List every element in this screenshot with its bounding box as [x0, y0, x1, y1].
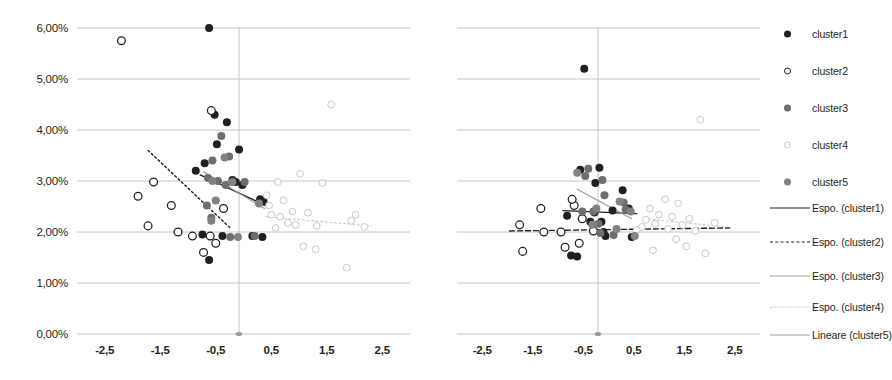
- data-point-cluster4: [285, 219, 292, 226]
- data-point-cluster4: [328, 101, 335, 108]
- data-point-cluster1: [235, 145, 243, 153]
- data-point-cluster5: [207, 217, 215, 225]
- legend-line-sample-icon: [770, 208, 810, 209]
- data-point-cluster4: [662, 196, 669, 203]
- y-axis-tick-label: 3,00%: [2, 175, 68, 187]
- data-point-cluster1: [563, 212, 571, 220]
- data-point-cluster2: [200, 249, 208, 257]
- data-point-cluster3: [251, 232, 259, 240]
- data-point-cluster1: [205, 256, 213, 264]
- data-point-cluster2: [189, 232, 197, 240]
- plot-area-left: [0, 0, 440, 380]
- data-point-cluster1: [258, 233, 266, 241]
- data-point-cluster4: [268, 211, 275, 218]
- data-point-cluster2: [516, 221, 524, 229]
- data-point-cluster2: [519, 247, 527, 255]
- data-point-cluster4: [686, 215, 693, 222]
- data-point-cluster2: [118, 37, 126, 45]
- data-point-cluster1: [192, 167, 200, 175]
- x-axis-tick-label: 0,5: [251, 344, 291, 356]
- data-point-cluster5: [228, 178, 236, 186]
- legend-line-sample-icon: [770, 276, 810, 277]
- data-point-cluster5: [592, 205, 600, 213]
- legend-marker-icon: [784, 31, 791, 38]
- data-point-cluster4: [656, 211, 663, 218]
- data-point-cluster5: [221, 154, 229, 162]
- x-axis-tick-label: 2,5: [362, 344, 402, 356]
- legend-item-cluster2[interactable]: cluster2: [770, 63, 848, 79]
- data-point-cluster4: [312, 246, 319, 253]
- data-point-cluster1: [573, 252, 581, 260]
- data-point-cluster2: [206, 232, 214, 240]
- legend-item-label: cluster3: [812, 102, 848, 114]
- data-point-cluster2: [144, 222, 152, 230]
- data-point-cluster1: [619, 186, 627, 194]
- data-point-cluster2: [557, 228, 565, 236]
- data-point-cluster1: [595, 164, 603, 172]
- legend-item-espo-cluster4[interactable]: Espo. (cluster4): [770, 299, 884, 315]
- data-point-cluster1: [591, 179, 599, 187]
- legend-marker-icon: [784, 142, 791, 149]
- data-point-cluster4: [679, 221, 686, 228]
- x-axis-tick-label: -0,5: [196, 344, 236, 356]
- legend-item-label: cluster5: [812, 176, 848, 188]
- legend-item-espo-cluster2[interactable]: Espo. (cluster2): [770, 234, 884, 250]
- legend-item-label: Espo. (cluster3): [812, 270, 884, 282]
- data-point-cluster5: [588, 221, 596, 229]
- scatter-panel-left: 0,00%1,00%2,00%3,00%4,00%5,00%6,00% -2,5…: [0, 0, 440, 380]
- legend-marker-icon: [784, 179, 791, 186]
- data-point-cluster3: [598, 176, 606, 184]
- legend-item-label: Espo. (cluster4): [812, 301, 884, 313]
- y-axis-tick-label: 5,00%: [2, 73, 68, 85]
- data-point-cluster1: [223, 118, 231, 126]
- data-point-cluster1: [201, 159, 209, 167]
- data-point-cluster2: [540, 228, 548, 236]
- data-point-cluster4: [266, 202, 273, 209]
- legend-item-cluster5[interactable]: cluster5: [770, 174, 848, 190]
- data-point-cluster5: [616, 197, 624, 205]
- trendline: [148, 150, 230, 228]
- data-point-cluster2: [150, 178, 158, 186]
- data-point-cluster4: [361, 224, 368, 231]
- data-point-cluster3: [208, 157, 216, 165]
- legend-item-cluster3[interactable]: cluster3: [770, 100, 848, 116]
- y-axis-tick-label: 6,00%: [2, 22, 68, 34]
- legend-item-espo-cluster1[interactable]: Espo. (cluster1): [770, 200, 884, 216]
- data-point-cluster3: [241, 178, 249, 186]
- legend-item-label: Espo. (cluster1): [812, 202, 884, 214]
- data-point-cluster5: [631, 232, 639, 240]
- data-point-cluster5: [255, 199, 263, 207]
- data-point-cluster2: [167, 202, 175, 210]
- data-point-cluster4: [304, 209, 311, 216]
- data-point-cluster2: [578, 215, 586, 223]
- x-axis-tick-label: -1,5: [513, 344, 553, 356]
- chart-root: 0,00%1,00%2,00%3,00%4,00%5,00%6,00% -2,5…: [0, 0, 892, 380]
- legend-item-cluster4[interactable]: cluster4: [770, 137, 848, 153]
- data-point-cluster1: [198, 231, 206, 239]
- data-point-cluster3: [578, 208, 586, 216]
- data-point-cluster2: [561, 243, 569, 251]
- x-axis-tick-label: 1,5: [307, 344, 347, 356]
- data-point-cluster1: [205, 24, 213, 32]
- origin-marker: [236, 332, 242, 336]
- legend-item-espo-cluster3[interactable]: Espo. (cluster3): [770, 268, 884, 284]
- legend-item-cluster1[interactable]: cluster1: [770, 26, 848, 42]
- legend-item-label: Espo. (cluster2): [812, 236, 884, 248]
- x-axis-tick-label: -0,5: [563, 344, 603, 356]
- scatter-panel-right: -2,5-1,5-0,50,51,52,5: [440, 0, 770, 380]
- legend-item-label: cluster1: [812, 28, 848, 40]
- x-axis-tick-label: -2,5: [85, 344, 125, 356]
- legend-line-sample-icon: [770, 335, 810, 336]
- data-point-cluster4: [652, 220, 659, 227]
- legend-item-lineare-cluster5[interactable]: Lineare (cluster5): [770, 327, 892, 343]
- data-point-cluster4: [348, 217, 355, 224]
- x-axis-tick-label: -2,5: [462, 344, 502, 356]
- data-point-cluster4: [692, 228, 699, 235]
- data-point-cluster4: [673, 236, 680, 243]
- plot-area-right: [440, 0, 770, 380]
- data-point-cluster4: [665, 226, 672, 233]
- chart-legend: cluster1cluster2cluster3cluster4cluster5…: [770, 0, 892, 380]
- data-point-cluster4: [263, 192, 270, 199]
- origin-marker: [595, 332, 601, 336]
- data-point-cluster4: [289, 208, 296, 215]
